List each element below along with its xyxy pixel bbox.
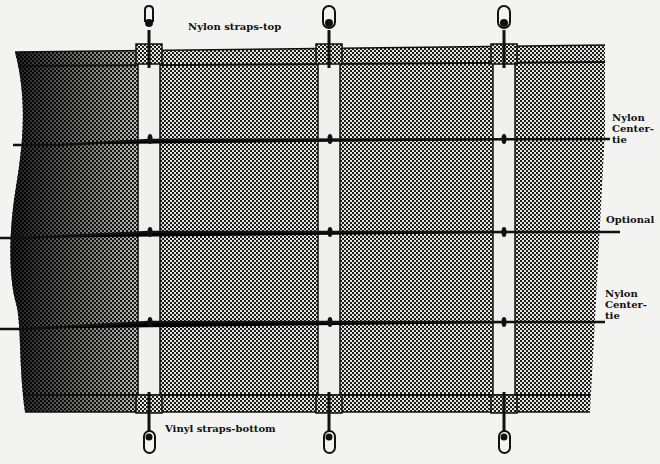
hook-icon [499,431,510,453]
bottom-hooks [144,431,510,453]
curtain-diagram [0,0,660,464]
hook-icon [498,6,510,28]
label-nylon-center-tie-upper: Nylon Center- tie [612,112,654,145]
label-nylon-center-tie-lower: Nylon Center- tie [605,288,647,321]
label-vinyl-straps-bottom: Vinyl straps-bottom [165,423,276,434]
hook-icon [145,6,153,26]
hook-icon [324,431,335,453]
hook-icon [144,431,155,453]
label-optional: Optional [606,214,654,225]
label-nylon-straps-top: Nylon straps-top [188,21,281,32]
hook-icon [323,6,335,28]
